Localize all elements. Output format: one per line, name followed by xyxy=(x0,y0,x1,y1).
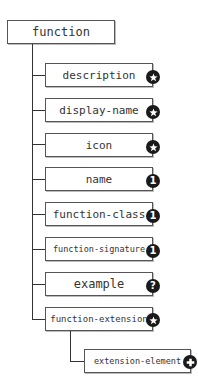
node-name: name xyxy=(45,167,153,191)
node-function: function xyxy=(7,20,115,44)
optional-badge: ? xyxy=(146,279,160,293)
node-function-class: function-class xyxy=(45,202,153,226)
node-label: icon xyxy=(86,139,113,152)
node-function-signature: function-signature xyxy=(45,237,153,261)
node-description: description xyxy=(45,63,153,87)
node-label: function-class xyxy=(53,208,146,221)
trunk-line xyxy=(32,44,33,320)
node-label: extension-element xyxy=(94,356,181,366)
star-icon xyxy=(146,105,160,119)
star-icon xyxy=(146,313,160,327)
exactly-one-badge: 1 xyxy=(146,209,160,223)
branch-line xyxy=(32,144,45,145)
exactly-one-badge: 1 xyxy=(146,244,160,258)
badge-text: 1 xyxy=(150,211,157,221)
node-function-extension: function-extension xyxy=(45,307,153,331)
node-label: function-signature xyxy=(53,244,145,254)
node-label: display-name xyxy=(59,104,138,117)
branch-line xyxy=(70,361,84,362)
badge-text: ? xyxy=(150,281,156,291)
star-icon xyxy=(146,140,160,154)
node-example: example xyxy=(45,272,153,296)
sub-trunk-line xyxy=(70,331,71,362)
branch-line xyxy=(32,249,45,250)
star-icon xyxy=(146,70,160,84)
node-extension-element: extension-element xyxy=(84,349,191,373)
node-label: example xyxy=(74,277,125,291)
branch-line xyxy=(32,75,45,76)
node-icon: icon xyxy=(45,133,153,157)
plus-icon xyxy=(183,355,197,369)
branch-line xyxy=(32,110,45,111)
node-label: name xyxy=(86,173,113,186)
node-label: description xyxy=(63,69,136,82)
branch-line xyxy=(32,319,45,320)
branch-line xyxy=(32,214,45,215)
node-label: function-extension xyxy=(50,314,148,324)
branch-line xyxy=(32,179,45,180)
node-display-name: display-name xyxy=(45,98,153,122)
badge-text: 1 xyxy=(150,176,157,186)
branch-line xyxy=(32,284,45,285)
badge-text: 1 xyxy=(150,246,157,256)
exactly-one-badge: 1 xyxy=(146,174,160,188)
node-label: function xyxy=(32,25,90,39)
